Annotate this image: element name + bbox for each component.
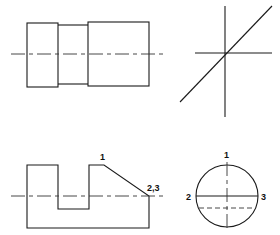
drawing-canvas: 1 2,3 1 2 3 [0, 0, 280, 235]
notched-profile-view: 1 2,3 [11, 152, 165, 228]
profile-outline [27, 165, 149, 228]
label-point-1: 1 [100, 152, 105, 162]
label-point-3: 3 [261, 192, 266, 202]
stepped-cylinder-view [11, 22, 165, 87]
miter-line [180, 6, 272, 102]
label-point-1: 1 [224, 150, 229, 160]
circular-end-view: 1 2 3 [186, 150, 266, 231]
miter-axes-view [180, 6, 272, 117]
label-point-2: 2 [186, 192, 191, 202]
left-collar [27, 23, 58, 87]
label-point-2-3: 2,3 [147, 183, 160, 193]
